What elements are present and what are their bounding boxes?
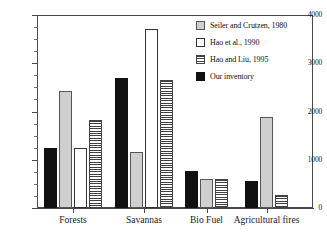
bar (260, 117, 273, 208)
legend-swatch-icon (196, 55, 205, 64)
bar (185, 171, 198, 208)
legend-label: Seiler and Crutzen, 1980 (210, 21, 287, 30)
x-axis-tick (207, 209, 208, 213)
legend-item: Hao and Liu, 1995 (196, 52, 311, 66)
legend-label: Hao et al., 1990 (210, 38, 259, 47)
legend-item: Our inventory (196, 69, 311, 83)
bar (89, 120, 102, 208)
bar (115, 78, 128, 208)
x-axis-tick (73, 209, 74, 213)
bar (145, 29, 158, 208)
x-axis-label: Agricultural fires (207, 214, 327, 226)
y-axis-tick (32, 208, 38, 209)
bar (245, 181, 258, 208)
legend-swatch-icon (196, 72, 205, 81)
x-axis-tick (267, 209, 268, 213)
legend-swatch-icon (196, 21, 205, 30)
x-axis-tick (144, 209, 145, 213)
bar (59, 91, 72, 208)
chart-legend: Seiler and Crutzen, 1980Hao et al., 1990… (196, 18, 311, 86)
bar (215, 179, 228, 208)
legend-item: Hao et al., 1990 (196, 35, 311, 49)
legend-label: Our inventory (210, 72, 254, 81)
legend-label: Hao and Liu, 1995 (210, 55, 268, 64)
bar (44, 148, 57, 208)
bar (74, 148, 87, 208)
bar (200, 179, 213, 208)
x-axis-line (37, 208, 314, 209)
legend-item: Seiler and Crutzen, 1980 (196, 18, 311, 32)
bar (130, 152, 143, 208)
bar (160, 80, 173, 208)
legend-swatch-icon (196, 38, 205, 47)
bar (275, 195, 288, 209)
